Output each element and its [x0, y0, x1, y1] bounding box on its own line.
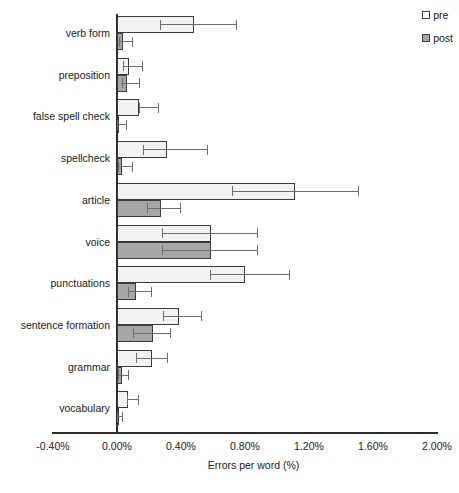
category-row: grammar [0, 350, 459, 384]
category-row: sentence formation [0, 308, 459, 342]
error-bar-post [162, 242, 258, 259]
error-bar-line [123, 66, 142, 67]
plot-area: verb formprepositionfalse spell checkspe… [0, 0, 459, 493]
error-bar-line [143, 149, 208, 150]
y-axis-category-label: spellcheck [0, 152, 110, 164]
category-row: false spell check [0, 99, 459, 133]
y-axis-category-label: article [0, 194, 110, 206]
x-axis-title: Errors per word (%) [0, 459, 459, 471]
error-bar-cap-high [122, 412, 123, 422]
error-bar-cap-high [132, 37, 133, 47]
x-tick-label: 1.60% [358, 440, 388, 452]
error-bar-pre [136, 350, 168, 367]
error-bar-pre [139, 99, 159, 116]
error-bar-cap-high [170, 328, 171, 338]
x-tick-label: 1.20% [294, 440, 324, 452]
y-axis-category-label: sentence formation [0, 319, 110, 331]
y-axis-category-label: vocabulary [0, 402, 110, 414]
error-bar-cap-high [128, 370, 129, 380]
error-bar-cap-low [118, 370, 119, 380]
error-bar-line [163, 316, 201, 317]
error-bar-cap-high [289, 270, 290, 280]
error-bar-cap-low [127, 395, 128, 405]
error-bar-cap-low [232, 186, 233, 196]
error-bar-pre [143, 141, 208, 158]
error-bar-cap-high [236, 20, 237, 30]
category-row: article [0, 183, 459, 217]
error-bar-line [118, 166, 133, 167]
category-row: preposition [0, 58, 459, 92]
error-bar-cap-high [358, 186, 359, 196]
x-axis-tick-labels: -0.40%0.00%0.40%0.80%1.20%1.60%2.00% [0, 440, 459, 456]
error-bar-cap-high [167, 353, 168, 363]
error-bar-cap-low [143, 145, 144, 155]
y-axis-category-label: verb form [0, 27, 110, 39]
x-tick-label: 0.00% [102, 440, 132, 452]
error-bar-line [232, 191, 358, 192]
error-bar-cap-low [136, 353, 137, 363]
error-bar-line [122, 83, 140, 84]
error-bar-line [147, 208, 181, 209]
error-bar-line [119, 41, 133, 42]
error-bar-cap-low [139, 103, 140, 113]
error-bar-cap-low [117, 412, 118, 422]
bar-chart-figure: pre post verb formprepositionfalse spell… [0, 0, 459, 493]
error-bar-cap-low [210, 270, 211, 280]
category-row: verb form [0, 16, 459, 50]
error-bar-cap-high [139, 78, 140, 88]
error-bar-pre [160, 16, 237, 33]
error-bar-line [160, 24, 237, 25]
error-bar-pre [232, 183, 358, 200]
error-bar-cap-high [126, 120, 127, 130]
error-bar-line [133, 333, 171, 334]
error-bar-pre [127, 391, 139, 408]
error-bar-cap-low [162, 245, 163, 255]
error-bar-line [162, 250, 258, 251]
error-bar-pre [123, 58, 142, 75]
category-row: spellcheck [0, 141, 459, 175]
x-axis-line [52, 432, 438, 434]
error-bar-cap-high [201, 311, 202, 321]
category-row: vocabulary [0, 391, 459, 425]
error-bar-post [133, 325, 171, 342]
error-bar-cap-low [128, 287, 129, 297]
error-bar-cap-low [118, 162, 119, 172]
y-axis-category-label: preposition [0, 69, 110, 81]
error-bar-cap-low [160, 20, 161, 30]
error-bar-line [128, 291, 152, 292]
error-bar-post [147, 200, 181, 217]
error-bar-pre [210, 266, 290, 283]
error-bar-post [119, 33, 133, 50]
error-bar-cap-high [180, 203, 181, 213]
y-axis-category-label: voice [0, 236, 110, 248]
x-tick-label: -0.40% [36, 440, 69, 452]
error-bar-cap-high [257, 245, 258, 255]
error-bar-cap-low [133, 328, 134, 338]
error-bar-line [210, 274, 290, 275]
error-bar-line [162, 233, 258, 234]
error-bar-post [118, 367, 129, 384]
error-bar-cap-low [117, 120, 118, 130]
x-tick-label: 0.40% [166, 440, 196, 452]
error-bar-post [128, 283, 152, 300]
x-tick-label: 0.80% [230, 440, 260, 452]
bar-pre [117, 99, 139, 116]
error-bar-cap-high [138, 395, 139, 405]
y-axis-category-label: false spell check [0, 110, 110, 122]
error-bar-cap-high [151, 287, 152, 297]
error-bar-line [139, 107, 159, 108]
error-bar-cap-high [158, 103, 159, 113]
error-bar-post [122, 75, 140, 92]
error-bar-cap-low [162, 228, 163, 238]
error-bar-cap-low [123, 61, 124, 71]
error-bar-cap-low [163, 311, 164, 321]
error-bar-post [118, 158, 133, 175]
error-bar-post [117, 408, 123, 425]
error-bar-cap-low [147, 203, 148, 213]
x-axis-zero-tick [116, 425, 118, 434]
x-axis-title-text: Errors per word (%) [208, 459, 300, 471]
error-bar-cap-low [122, 78, 123, 88]
category-row: punctuations [0, 266, 459, 300]
error-bar-cap-high [257, 228, 258, 238]
error-bar-cap-low [119, 37, 120, 47]
